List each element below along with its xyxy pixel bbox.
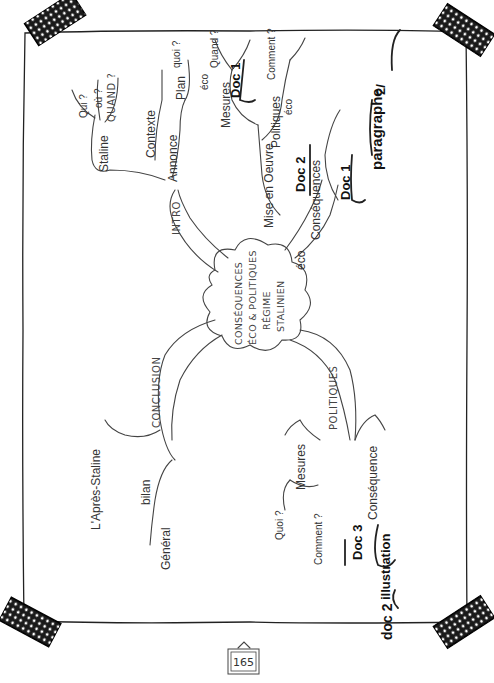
label-conclusion: CONCLUSION: [151, 357, 162, 428]
page-number: 165: [233, 656, 254, 669]
page-frame: [23, 30, 468, 623]
label-annonce: Annonce: [166, 134, 180, 182]
label-staline: Staline: [97, 135, 111, 172]
hanging-hook-icon: [238, 642, 250, 648]
label-mise-en-oeuvre: Mise en Oeuvre: [262, 143, 276, 228]
label-politiques-eco: Politiques: [269, 96, 283, 148]
label-apres-staline: L'Après-Staline: [89, 449, 103, 530]
label-quand: QUAND ?: [106, 73, 117, 122]
label-doc2b: doc 2: [379, 603, 395, 640]
branch-mesures-pol: [285, 420, 320, 440]
label-paragraphe: paragraphe: [368, 88, 385, 170]
label-bilan: bilan: [139, 480, 153, 505]
label-intro: INTRO: [171, 201, 182, 235]
label-quand-eco: Quand ?: [209, 29, 220, 68]
tape-dots: [433, 596, 494, 648]
branch-politiques: [290, 340, 350, 440]
tape-dots: [433, 4, 494, 56]
label-eco: éco: [294, 250, 308, 270]
center-line-1: CONSÉQUENCES: [233, 262, 244, 345]
label-doc1-mesures: Doc 1: [228, 63, 243, 98]
center-line-4: STALINIEN: [275, 281, 286, 332]
center-line-2: ÉCO & POLITIQUES: [247, 250, 258, 345]
branch-consequence-pol: [355, 415, 385, 440]
branch-conclusion: [158, 320, 215, 460]
label-politiques: POLITIQUES: [328, 366, 339, 430]
label-comment-eco: Comment ?: [266, 28, 277, 80]
label-quoi-pol: Quoi ?: [274, 510, 285, 540]
label-consequence-pol: Conséquence: [366, 446, 380, 520]
center-topic: CONSÉQUENCES ÉCO & POLITIQUES RÉGIME STA…: [233, 250, 286, 345]
page-number-frame: 165: [228, 642, 259, 674]
mindmap-page: CONSÉQUENCES ÉCO & POLITIQUES RÉGIME STA…: [0, 0, 494, 683]
label-consequences-eco: Conséquences: [309, 160, 323, 240]
label-politiques-eco-sub: éco: [283, 98, 294, 115]
center-line-3: RÉGIME: [261, 291, 272, 330]
label-general: Général: [159, 527, 173, 570]
underline-2: [392, 30, 400, 70]
label-ou: où ?: [93, 88, 104, 108]
tape-dots: [0, 597, 61, 646]
label-doc1-conseq: Doc 1: [338, 165, 353, 200]
label-comment-pol: Comment ?: [313, 513, 324, 565]
label-doc3: Doc 3: [350, 525, 365, 560]
label-mesures-pol: Mesures: [294, 444, 308, 490]
bracket-doc1-conseq: [351, 155, 365, 203]
label-quoi: quoi ?: [171, 40, 182, 68]
label-illustration: illustration: [378, 533, 393, 600]
label-mesures-eco-sub: éco: [199, 73, 210, 90]
label-contexte: Contexte: [144, 110, 158, 158]
label-doc2: Doc 2: [293, 157, 308, 192]
label-plan: Plan: [174, 76, 188, 100]
label-qui: Qui ?: [78, 94, 89, 118]
